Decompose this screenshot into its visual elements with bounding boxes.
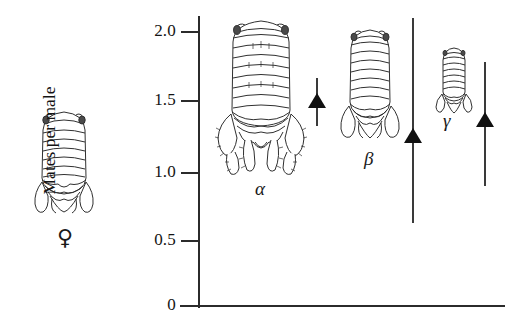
beta-marker [404,18,422,223]
gamma-label: γ [443,110,451,132]
alpha-label: α [255,178,265,200]
beta-label: β [364,148,373,170]
beta-male-illustration [337,22,403,150]
y-tick-1 [181,172,199,174]
alpha-triangle-marker [308,93,326,108]
beta-triangle-marker [404,128,422,143]
y-axis-line [198,16,200,308]
y-tick-1_5 [181,100,199,102]
beta-error-bar [412,18,414,223]
y-tick-0 [181,305,199,307]
alpha-marker [308,78,326,126]
y-tick-label-0_5: 0.5 [124,230,176,250]
gamma-marker [476,62,494,186]
gamma-male-illustration [434,44,474,120]
y-axis-title: Mates per male [39,46,60,236]
isopod-mating-figure: ♀ 2.0 1.5 1.0 0.5 0 Mates per male [0,0,532,326]
y-tick-0_5 [181,240,199,242]
y-tick-2 [181,31,199,33]
alpha-male-illustration [215,14,307,180]
gamma-triangle-marker [476,112,494,127]
y-tick-label-2: 2.0 [124,21,176,41]
y-tick-label-0: 0 [124,295,176,315]
y-tick-label-1_5: 1.5 [124,90,176,110]
x-axis-line [180,305,505,307]
y-tick-label-1: 1.0 [124,162,176,182]
